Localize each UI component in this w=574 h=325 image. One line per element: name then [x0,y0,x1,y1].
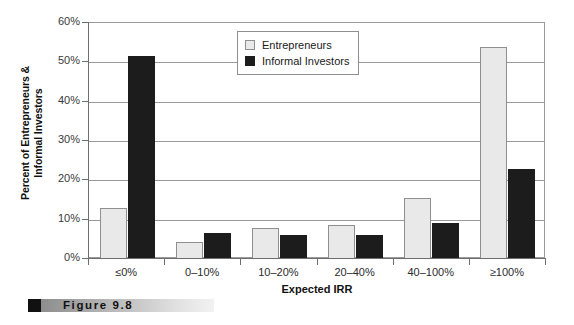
y-axis-tick-label: 60% [38,16,80,27]
y-axis-tick [82,61,88,62]
gridline [89,141,544,142]
x-axis-category-label: 40–100% [391,266,471,278]
y-axis-tick [82,101,88,102]
bar-informal-investors [356,235,383,259]
x-axis-category-label: 0–10% [162,266,242,278]
caption-marker-icon [28,299,41,312]
legend-item-label: Informal Investors [262,55,349,67]
y-axis-tick [82,219,88,220]
chart-legend: EntrepreneursInformal Investors [237,31,359,75]
y-axis-tick-label: 10% [38,213,80,224]
y-axis-tick-label: 50% [38,55,80,66]
figure-container: Percent of Entrepreneurs & Informal Inve… [0,0,574,325]
x-axis-category-label: 20–40% [315,266,395,278]
x-axis-tick [469,259,470,265]
x-axis-category-label: ≤0% [86,266,166,278]
bar-informal-investors [508,169,535,259]
gridline [89,220,544,221]
figure-caption: Figure 9.8 [28,298,214,312]
gridline [89,102,544,103]
y-axis-tick-labels: 0%10%20%30%40%50%60% [34,0,80,325]
bar-entrepreneurs [176,242,203,259]
bar-entrepreneurs [100,208,127,259]
y-axis-tick-label: 0% [38,252,80,263]
bar-informal-investors [128,56,155,259]
gridline [89,180,544,181]
y-axis-tick [82,140,88,141]
x-axis-tick [317,259,318,265]
legend-item: Entrepreneurs [245,37,349,53]
legend-item-label: Entrepreneurs [262,39,332,51]
bar-entrepreneurs [328,225,355,259]
legend-swatch-icon [245,40,255,50]
x-axis-tick [164,259,165,265]
y-axis-tick-label: 20% [38,173,80,184]
y-axis-tick [82,22,88,23]
x-axis-tick [240,259,241,265]
bar-entrepreneurs [404,198,431,259]
caption-label: Figure 9.8 [63,299,133,312]
caption-bar: Figure 9.8 [41,299,214,312]
bar-entrepreneurs [252,228,279,259]
y-axis-tick [82,179,88,180]
x-axis-category-label: ≥100% [467,266,547,278]
x-axis-title: Expected IRR [88,283,546,295]
y-axis-tick-label: 40% [38,95,80,106]
y-axis-title-line-1: Percent of Entrepreneurs & [19,28,32,238]
bar-entrepreneurs [480,47,507,259]
y-axis-line [88,22,89,259]
x-axis-tick [88,259,89,265]
bar-informal-investors [432,223,459,259]
x-axis-category-label: 10–20% [238,266,318,278]
legend-swatch-icon [245,56,255,66]
legend-item: Informal Investors [245,53,349,69]
x-axis-tick [393,259,394,265]
x-axis-tick [545,259,546,265]
bar-informal-investors [280,235,307,259]
bar-informal-investors [204,233,231,259]
y-axis-tick-label: 30% [38,134,80,145]
